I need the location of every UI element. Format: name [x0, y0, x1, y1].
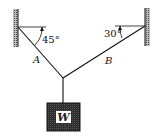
- arc-arrow-left: [40, 27, 44, 31]
- rope-label-b: B: [104, 55, 112, 66]
- angle-label-a: 45°: [42, 34, 60, 45]
- weight-label: W: [57, 111, 71, 124]
- right-wall: [145, 8, 150, 46]
- angle-label-b: 30°: [104, 28, 122, 39]
- rope-label-a: A: [32, 54, 40, 65]
- left-wall: [13, 9, 18, 47]
- force-diagram: 45° 30° A B W: [0, 0, 157, 136]
- weight-box: W: [47, 103, 80, 131]
